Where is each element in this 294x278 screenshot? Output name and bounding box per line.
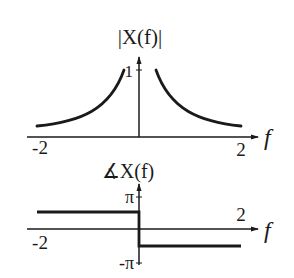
phase-x-tick-right: 2 xyxy=(236,204,246,225)
magnitude-title: |X(f)| xyxy=(118,25,163,49)
magnitude-x-axis-label: f xyxy=(264,124,274,150)
phase-tick-label-neg-pi: -π xyxy=(119,253,134,273)
phase-x-axis-label: f xyxy=(264,217,274,243)
magnitude-x-tick-right: 2 xyxy=(236,139,246,160)
phase-x-tick-left: -2 xyxy=(32,232,48,253)
magnitude-curve-left xyxy=(37,70,124,126)
phase-plot: ∡X(f) π -π -2 2 f xyxy=(27,160,274,273)
frequency-response-diagram: |X(f)| 1 -2 2 f ∡X(f) π -π -2 2 f xyxy=(0,0,294,278)
phase-title: ∡X(f) xyxy=(102,160,154,183)
magnitude-tick-label-1: 1 xyxy=(125,62,134,81)
magnitude-plot: |X(f)| 1 -2 2 f xyxy=(27,25,274,160)
magnitude-curve-right xyxy=(156,70,241,126)
phase-tick-label-pi: π xyxy=(125,187,134,207)
magnitude-x-tick-left: -2 xyxy=(32,137,48,158)
